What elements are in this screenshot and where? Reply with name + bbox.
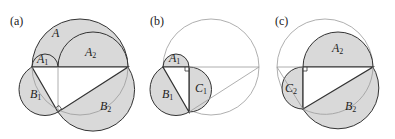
- panel-a: (a) A A1 A2 B1 B2: [10, 14, 135, 131]
- panel-label-b: (b): [150, 14, 164, 28]
- panel-c: (c) A2 B2 C2: [275, 14, 379, 129]
- figure: (a) A A1 A2 B1 B2 (b) A1 B1 C1: [0, 0, 395, 139]
- panel-label-c: (c): [275, 14, 288, 28]
- label-a: A: [51, 26, 60, 40]
- lunes-diagram: (a) A A1 A2 B1 B2 (b) A1 B1 C1: [0, 0, 395, 139]
- panel-b: (b) A1 B1 C1: [150, 14, 259, 116]
- label-a1: A1: [168, 51, 180, 66]
- panel-label-a: (a): [10, 14, 23, 28]
